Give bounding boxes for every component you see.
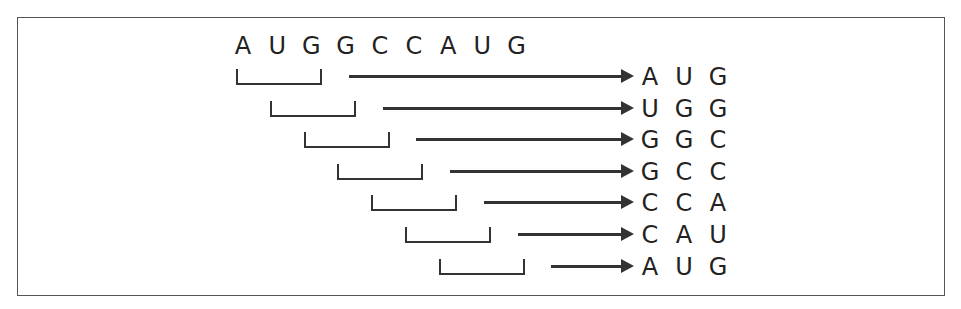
- codon-bracket: [236, 69, 322, 85]
- codon-nucleotide: G: [674, 128, 694, 152]
- sequence-nucleotide: U: [472, 34, 492, 58]
- codon-nucleotide: G: [708, 97, 728, 121]
- codon-nucleotide: U: [674, 255, 694, 279]
- sequence-nucleotide: C: [370, 34, 390, 58]
- codon-nucleotide: G: [708, 255, 728, 279]
- arrow-right-icon: [450, 170, 622, 173]
- sequence-nucleotide: U: [267, 34, 287, 58]
- codon-nucleotide: G: [640, 160, 660, 184]
- arrow-right-icon: [518, 233, 623, 236]
- codon-bracket: [405, 227, 491, 243]
- codon-nucleotide: U: [640, 97, 660, 121]
- arrow-right-icon: [416, 138, 622, 141]
- sequence-nucleotide: G: [507, 34, 527, 58]
- codon-bracket: [371, 195, 457, 211]
- codon-nucleotide: C: [708, 160, 728, 184]
- sequence-nucleotide: A: [233, 34, 253, 58]
- codon-nucleotide: C: [640, 191, 660, 215]
- codon-nucleotide: U: [708, 223, 728, 247]
- codon-nucleotide: G: [674, 97, 694, 121]
- codon-nucleotide: A: [674, 223, 694, 247]
- codon-bracket: [270, 101, 356, 117]
- arrow-right-icon: [551, 265, 622, 268]
- codon-nucleotide: U: [674, 65, 694, 89]
- arrow-right-icon: [484, 201, 622, 204]
- codon-nucleotide: A: [640, 255, 660, 279]
- codon-bracket: [337, 164, 423, 180]
- codon-nucleotide: G: [640, 128, 660, 152]
- codon-nucleotide: A: [640, 65, 660, 89]
- codon-bracket: [439, 259, 525, 275]
- sequence-nucleotide: A: [438, 34, 458, 58]
- sequence-nucleotide: C: [404, 34, 424, 58]
- arrow-right-icon: [383, 107, 622, 110]
- codon-nucleotide: C: [640, 223, 660, 247]
- codon-nucleotide: A: [708, 191, 728, 215]
- codon-nucleotide: C: [708, 128, 728, 152]
- sequence-nucleotide: G: [301, 34, 321, 58]
- codon-bracket: [304, 132, 390, 148]
- arrow-right-icon: [349, 75, 622, 78]
- codon-nucleotide: C: [674, 191, 694, 215]
- codon-nucleotide: G: [708, 65, 728, 89]
- codon-nucleotide: C: [674, 160, 694, 184]
- sequence-nucleotide: G: [336, 34, 356, 58]
